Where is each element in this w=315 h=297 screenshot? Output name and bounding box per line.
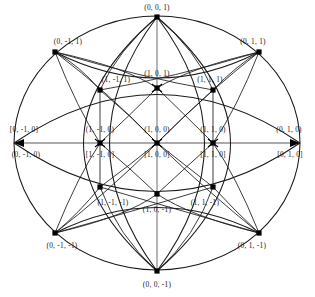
- node-label: (1, -1, 1): [102, 76, 130, 83]
- node-label: (0, 0, 1): [144, 4, 170, 11]
- node-dot: [97, 87, 102, 92]
- node-label: [0, -1, 0]: [10, 126, 38, 133]
- node-dot: [154, 14, 159, 19]
- node-dot: [154, 268, 159, 273]
- node-label: (0, 1, 1): [240, 38, 266, 45]
- node-label: (0, 0, -1): [143, 281, 171, 288]
- node-dot: [52, 230, 57, 235]
- node-label: (1, 0, 0): [144, 126, 170, 133]
- node-label: [0, 1, 0]: [277, 151, 303, 158]
- node-dot: [256, 230, 261, 235]
- node-label: (0, 1, 0): [276, 126, 302, 133]
- sphere-direction-diagram: .arc { fill:none; stroke:#1a1a1a; stroke…: [0, 0, 315, 297]
- node-label: (0, -1, -1): [46, 242, 77, 249]
- node-dot: [256, 49, 261, 54]
- node-label: (1, 1, -1): [191, 199, 219, 206]
- node-label: [1, 0, 0]: [144, 151, 170, 158]
- node-label: (1, -1, -1): [97, 199, 128, 206]
- node-label: (0, 1, -1): [238, 242, 266, 249]
- node-dot: [97, 184, 102, 189]
- diagram-canvas: .arc { fill:none; stroke:#1a1a1a; stroke…: [0, 0, 315, 297]
- node-label: (0, -1, 1): [54, 38, 82, 45]
- node-dot: [52, 49, 57, 54]
- node-label: (1, -1, 0): [86, 126, 114, 133]
- node-label: (1, 1, 1): [197, 76, 223, 83]
- node-label: [1, -1, 0]: [86, 151, 114, 158]
- node-label: [1, 1, 0]: [200, 151, 226, 158]
- node-label: (1, 1, 0): [200, 126, 226, 133]
- node-dot: [210, 184, 215, 189]
- node-label: (1, 0, 1): [144, 70, 170, 77]
- node-dot: [210, 87, 215, 92]
- node-dot: [154, 191, 159, 196]
- node-label: (0, -1, 0): [12, 151, 40, 158]
- node-label: (1, 0, -1): [143, 206, 171, 213]
